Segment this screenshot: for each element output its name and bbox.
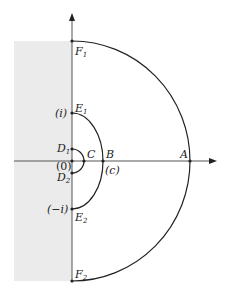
label-F2: F2 xyxy=(74,268,88,282)
point-E2 xyxy=(70,207,73,210)
label-E2: E2 xyxy=(74,211,88,225)
real-axis-arrow-icon xyxy=(209,158,217,164)
point-F2 xyxy=(70,279,73,282)
point-E1 xyxy=(70,111,73,114)
label-i: (i) xyxy=(55,107,67,120)
point-C xyxy=(82,159,85,162)
label-neg-i: (−i) xyxy=(47,203,68,216)
point-B xyxy=(101,159,104,162)
contour-diagram: F1 F2 E1 E2 D1 D2 C B A (i) (−i) (0) (c) xyxy=(0,0,228,292)
label-F1: F1 xyxy=(74,45,87,59)
label-C: C xyxy=(87,148,96,161)
point-A xyxy=(188,159,191,162)
point-D1 xyxy=(70,147,73,150)
label-E1: E1 xyxy=(74,102,88,116)
label-A: A xyxy=(179,148,188,161)
label-B: B xyxy=(105,148,114,161)
label-c: (c) xyxy=(105,164,120,177)
label-zero: (0) xyxy=(56,160,72,173)
point-F1 xyxy=(70,39,73,42)
imaginary-axis-arrow-icon xyxy=(69,13,75,21)
